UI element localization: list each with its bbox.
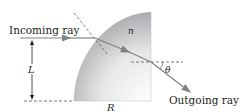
outgoing-ray xyxy=(151,62,190,92)
radius-label: R xyxy=(106,102,115,112)
angle-arc xyxy=(160,62,163,69)
angle-label: θ xyxy=(165,65,171,75)
refraction-diagram: Incoming ray Outgoing ray n L R θ xyxy=(0,0,241,112)
refractive-index-label: n xyxy=(128,26,134,36)
outgoing-ray-label: Outgoing ray xyxy=(169,94,239,106)
length-label: L xyxy=(27,64,35,75)
incoming-ray-label: Incoming ray xyxy=(9,24,80,36)
